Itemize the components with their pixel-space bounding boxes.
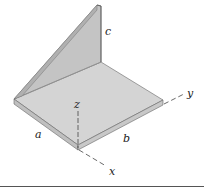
label-z: z <box>73 98 80 111</box>
y-axis <box>164 94 184 104</box>
label-y: y <box>186 87 194 100</box>
x-axis <box>79 150 106 166</box>
label-c: c <box>105 25 111 38</box>
label-b: b <box>123 132 130 145</box>
label-x: x <box>109 165 116 178</box>
label-a: a <box>35 128 42 141</box>
bracket-diagram: c z a b y x <box>0 0 204 191</box>
